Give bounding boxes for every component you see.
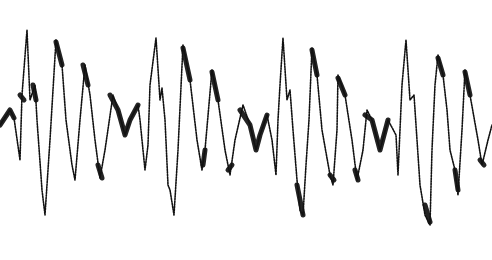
waveform-chart	[0, 0, 492, 260]
chart-background	[0, 0, 492, 260]
